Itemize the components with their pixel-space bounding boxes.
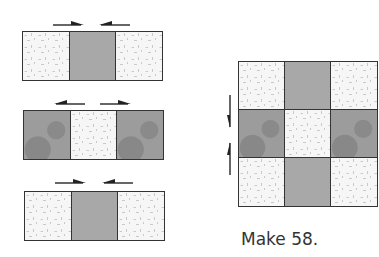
light-square <box>331 62 377 110</box>
press-arrow-down-icon <box>226 95 234 129</box>
light-square <box>116 32 162 80</box>
finished-block <box>238 61 378 207</box>
dark-square <box>285 158 331 206</box>
light-square <box>23 32 70 80</box>
press-arrow-left-icon <box>53 99 85 107</box>
row-2-strip <box>23 110 164 160</box>
light-square <box>239 158 285 206</box>
row-3-strip <box>24 191 165 241</box>
row-1-strip <box>22 31 163 81</box>
press-arrow-up-icon <box>226 141 234 175</box>
light-square <box>331 158 377 206</box>
press-arrow-right-icon <box>55 178 87 186</box>
light-square <box>239 62 285 110</box>
mottled-square <box>24 111 71 159</box>
press-arrow-left-icon <box>98 20 130 28</box>
press-arrow-left-icon <box>101 178 133 186</box>
press-arrow-right-icon <box>100 99 132 107</box>
mottled-square <box>117 111 163 159</box>
light-square <box>71 111 118 159</box>
dark-square <box>72 192 119 240</box>
light-square <box>118 192 164 240</box>
caption: Make 58. <box>241 229 318 249</box>
mottled-square <box>239 110 285 158</box>
dark-square <box>285 62 331 110</box>
light-square <box>285 110 331 158</box>
mottled-square <box>331 110 377 158</box>
press-arrow-right-icon <box>53 20 85 28</box>
dark-square <box>70 32 117 80</box>
light-square <box>25 192 72 240</box>
